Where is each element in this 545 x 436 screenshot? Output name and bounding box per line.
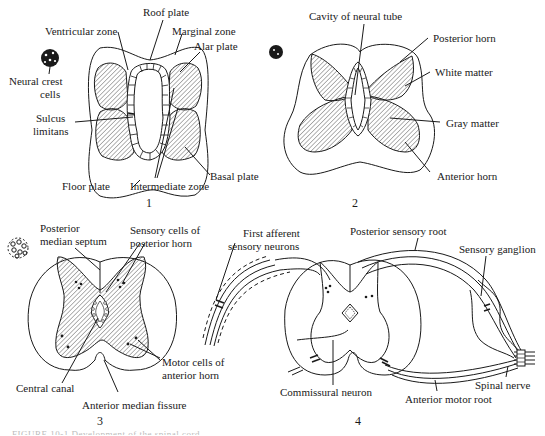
label-floor-plate: Floor plate [62, 180, 110, 192]
label-white-matter: White matter [435, 66, 493, 78]
label-motor-cells-line2: anterior horn [162, 369, 219, 381]
panel-number-2: 2 [352, 196, 358, 211]
label-first-afferent-line2: sensory neurons [228, 240, 299, 252]
label-spinal-nerve: Spinal nerve [475, 379, 530, 391]
label-cavity-of-neural-tube: Cavity of neural tube [309, 10, 402, 22]
panel-number-4: 4 [355, 414, 361, 429]
label-neural-crest-cells-line2: cells [40, 88, 60, 100]
label-sulcus-limitans: Sulcus [36, 112, 65, 124]
label-sensory-cells: Sensory cells of [130, 224, 200, 236]
label-motor-cells: Motor cells of [162, 356, 224, 368]
label-gray-matter: Gray matter [446, 117, 499, 129]
panel-1-neural-tube [41, 20, 210, 198]
panel-2-developing-cord [269, 24, 440, 174]
label-sensory-ganglion: Sensory ganglion [459, 243, 536, 255]
panel-3-spinal-cord [8, 238, 177, 392]
figure-caption: FIGURE 10-1 Development of the spinal co… [12, 429, 532, 435]
label-posterior-sensory-root: Posterior sensory root [350, 225, 447, 237]
label-neural-crest-cells: Neural crest [9, 75, 62, 87]
label-posterior-horn: Posterior horn [433, 32, 496, 44]
neural-crest-cells-icon [269, 45, 283, 59]
label-ventricular-zone: Ventricular zone [45, 25, 117, 37]
label-central-canal: Central canal [16, 382, 74, 394]
label-intermediate-zone: Intermediate zone [130, 180, 209, 192]
neural-crest-cells-icon [8, 238, 28, 258]
label-first-afferent: First afferent [243, 227, 300, 239]
neural-crest-cells-icon [41, 49, 59, 74]
label-anterior-motor-root: Anterior motor root [405, 393, 492, 405]
label-anterior-horn: Anterior horn [437, 170, 497, 182]
label-commissural-neuron: Commissural neuron [280, 386, 372, 398]
label-posterior-median-septum-line2: median septum [40, 235, 107, 247]
label-alar-plate: Alar plate [194, 40, 238, 52]
panel-number-1: 1 [146, 196, 152, 211]
label-posterior-median-septum: Posterior [40, 222, 80, 234]
label-roof-plate: Roof plate [143, 6, 189, 18]
label-sensory-cells-line2: posterior horn [130, 237, 192, 249]
panel-number-3: 3 [97, 414, 103, 429]
label-basal-plate: Basal plate [210, 170, 259, 182]
label-anterior-median-fissure: Anterior median fissure [82, 399, 186, 411]
label-marginal-zone: Marginal zone [172, 25, 236, 37]
label-sulcus-limitans-line2: limitans [33, 125, 68, 137]
panel-4-spinal-reflex [203, 238, 535, 391]
